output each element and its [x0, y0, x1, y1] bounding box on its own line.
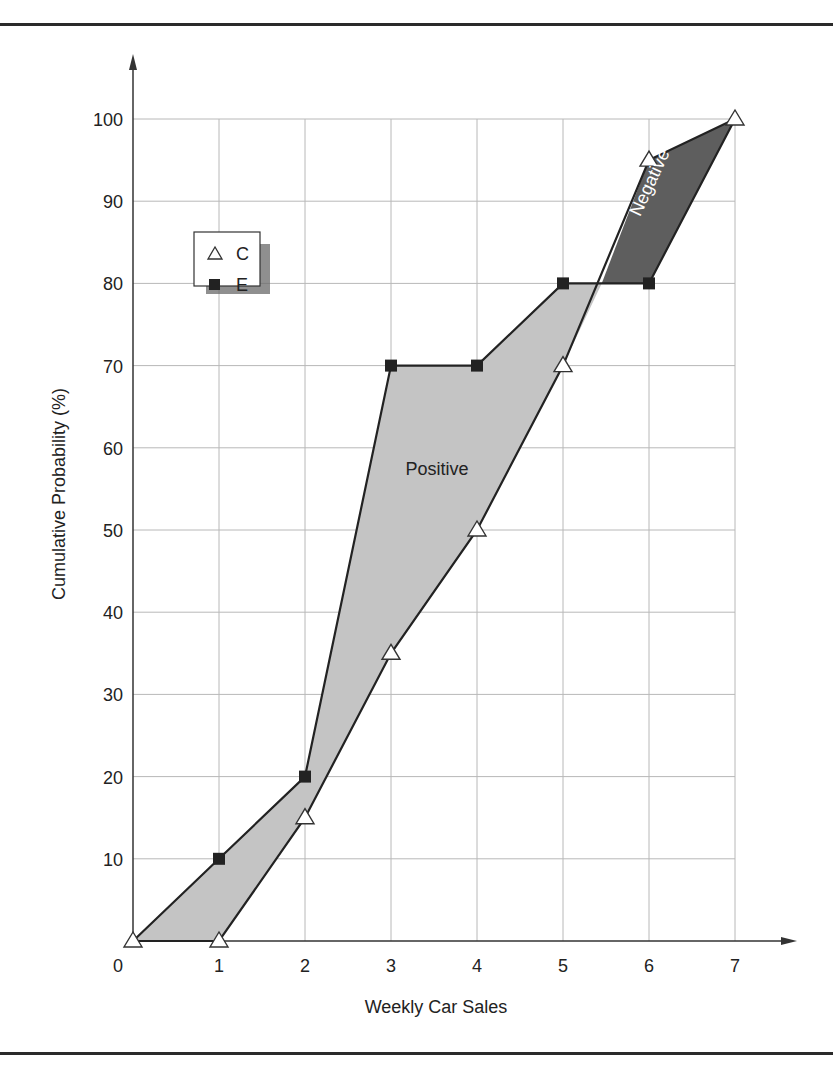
series-c-marker-triangle-icon: [726, 110, 744, 125]
y-tick-label: 70: [103, 357, 123, 377]
y-tick-label: 10: [103, 850, 123, 870]
y-tick-label: 20: [103, 768, 123, 788]
series-e-marker-square-icon: [385, 360, 397, 372]
y-tick-label: 60: [103, 439, 123, 459]
y-tick-label: 30: [103, 685, 123, 705]
x-tick-label: 1: [214, 956, 224, 976]
legend-square-icon: [209, 279, 220, 290]
x-tick-label-origin: 0: [113, 956, 123, 976]
series-e-marker-square-icon: [643, 277, 655, 289]
x-tick-label: 5: [558, 956, 568, 976]
series-e-marker-square-icon: [213, 853, 225, 865]
x-tick-label: 3: [386, 956, 396, 976]
y-tick-label: 40: [103, 603, 123, 623]
y-axis-label: Cumulative Probability (%): [49, 388, 69, 600]
legend-box: [194, 232, 260, 286]
positive-region-label: Positive: [405, 459, 468, 479]
series-e-marker-square-icon: [299, 771, 311, 783]
x-axis-label: Weekly Car Sales: [365, 997, 508, 1017]
x-tick-label: 4: [472, 956, 482, 976]
x-axis-arrow-icon: [781, 937, 797, 945]
legend-label-c: C: [236, 244, 249, 264]
series-e-marker-square-icon: [557, 277, 569, 289]
y-tick-label: 90: [103, 192, 123, 212]
y-axis-arrow-icon: [129, 54, 137, 70]
legend-label-e: E: [236, 275, 248, 295]
x-tick-label: 2: [300, 956, 310, 976]
series-e-marker-square-icon: [471, 360, 483, 372]
y-tick-label: 80: [103, 274, 123, 294]
x-tick-label: 6: [644, 956, 654, 976]
x-tick-label: 7: [730, 956, 740, 976]
cumulative-probability-chart: 01234567102030405060708090100 Weekly Car…: [0, 0, 833, 1073]
y-tick-label: 50: [103, 521, 123, 541]
y-tick-label: 100: [93, 110, 123, 130]
legend: C E: [194, 232, 270, 295]
